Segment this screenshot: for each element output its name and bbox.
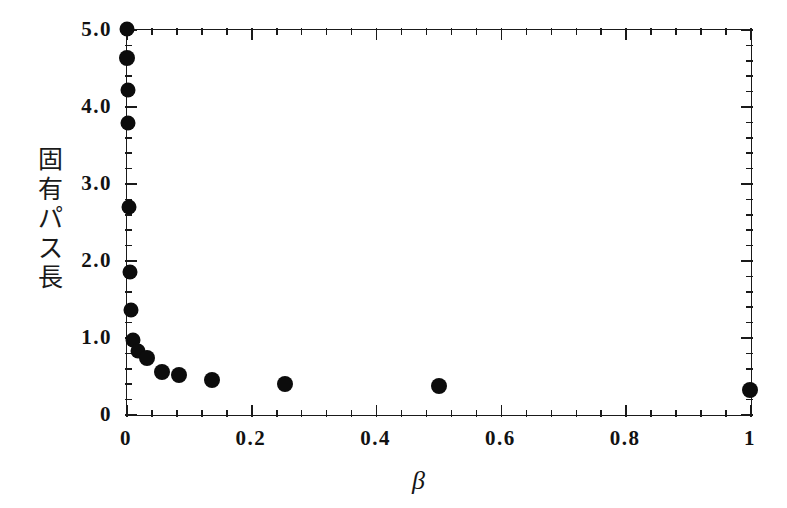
y-axis-minor-tick [125,399,132,401]
x-axis-minor-tick [650,28,652,35]
y-axis-minor-tick [125,152,132,154]
y-axis-minor-tick [746,306,753,308]
y-axis-minor-tick [746,60,753,62]
x-axis-minor-tick [600,410,602,417]
x-axis-minor-tick [176,28,178,35]
y-axis-label-char-4: ス [30,234,70,264]
y-axis-tick-label: 3.0 [81,171,112,196]
x-axis-minor-tick [551,28,553,35]
y-axis-minor-tick [746,368,753,370]
x-axis-minor-tick [725,28,727,35]
x-axis-tick-label: 0.8 [610,426,641,451]
x-axis-minor-tick [351,28,353,35]
y-axis-minor-tick [746,353,753,355]
y-axis-label-char-1: 固 [30,145,70,175]
x-axis-tick-label: 0.6 [485,426,516,451]
y-axis-minor-tick [746,245,753,247]
y-axis-minor-tick [746,75,753,77]
x-axis-minor-tick [476,28,478,35]
y-axis-minor-tick [125,322,132,324]
x-axis-minor-tick [426,410,428,417]
x-axis-major-tick [376,28,378,40]
x-axis-minor-tick [725,410,727,417]
x-axis-major-tick [251,405,253,417]
x-axis-minor-tick [600,28,602,35]
y-axis-label-char-5: 長 [30,263,70,293]
x-axis-tick-label: 0.2 [235,426,266,451]
x-axis-major-tick [501,405,503,417]
x-axis-minor-tick [551,410,553,417]
y-axis-minor-tick [746,122,753,124]
y-axis-minor-tick [125,383,132,385]
y-axis-major-tick [741,337,753,339]
y-axis-minor-tick [746,214,753,216]
y-axis-minor-tick [125,245,132,247]
x-axis-minor-tick [151,410,153,417]
x-axis-tick-label: 0 [120,426,132,451]
x-axis-minor-tick [675,28,677,35]
data-point [124,303,139,318]
x-axis-minor-tick [226,28,228,35]
x-axis-minor-tick [351,410,353,417]
y-axis-major-tick [125,260,137,262]
y-axis-major-tick [741,183,753,185]
data-point [122,200,137,215]
x-axis-minor-tick [576,28,578,35]
x-axis-label-glyph: β [412,466,425,495]
y-axis-tick-label: 2.0 [81,248,112,273]
x-axis-minor-tick [650,410,652,417]
data-point [121,116,136,131]
x-axis-minor-tick [301,28,303,35]
x-axis-minor-tick [201,28,203,35]
y-axis-minor-tick [746,399,753,401]
data-point [121,83,136,98]
x-axis-tick-label: 1 [744,426,756,451]
data-point [154,364,170,380]
plot-area [126,29,752,416]
data-point [123,265,138,280]
y-axis-minor-tick [125,45,132,47]
x-axis-minor-tick [151,28,153,35]
y-axis-tick-label: 5.0 [81,17,112,42]
x-axis-minor-tick [276,410,278,417]
y-axis-minor-tick [746,91,753,93]
y-axis-minor-tick [746,152,753,154]
data-point [431,378,447,394]
y-axis-major-tick [741,106,753,108]
x-axis-minor-tick [675,410,677,417]
data-point [742,382,758,398]
x-axis-minor-tick [526,28,528,35]
x-axis-minor-tick [476,410,478,417]
x-axis-minor-tick [176,410,178,417]
y-axis-minor-tick [125,368,132,370]
y-axis-minor-tick [746,291,753,293]
y-axis-minor-tick [125,168,132,170]
y-axis-label-char-2: 有 [30,175,70,205]
data-point [171,367,187,383]
y-axis-minor-tick [746,199,753,201]
data-point [119,50,135,66]
x-axis-minor-tick [700,410,702,417]
x-axis-major-tick [376,405,378,417]
y-axis-minor-tick [746,276,753,278]
x-axis-minor-tick [576,410,578,417]
x-axis-minor-tick [401,410,403,417]
y-axis-label: 固 有 パ ス 長 [30,145,70,293]
x-axis-label: β [0,466,787,496]
y-axis-minor-tick [746,322,753,324]
data-point [120,22,135,37]
x-axis-minor-tick [326,410,328,417]
data-point [277,376,293,392]
x-axis-minor-tick [700,28,702,35]
y-axis-minor-tick [125,291,132,293]
x-axis-tick-label: 0.4 [360,426,391,451]
data-point [204,372,220,388]
x-axis-major-tick [501,28,503,40]
y-axis-major-tick [125,106,137,108]
y-axis-label-char-3: パ [30,204,70,234]
y-axis-minor-tick [125,229,132,231]
y-axis-major-tick [741,29,753,31]
y-axis-minor-tick [746,45,753,47]
x-axis-minor-tick [326,28,328,35]
x-axis-minor-tick [526,410,528,417]
